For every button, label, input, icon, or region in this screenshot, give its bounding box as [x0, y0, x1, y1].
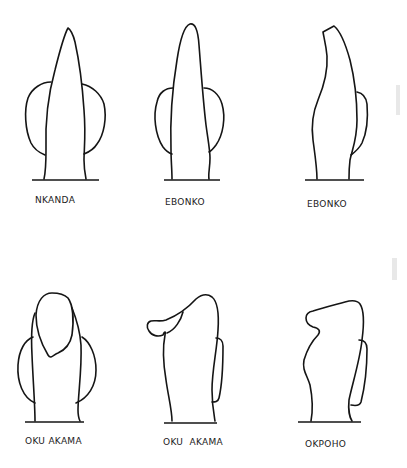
figure-ebonko-front-body: [171, 24, 210, 179]
figure-nkanda-right-lobe: [82, 84, 105, 154]
scan-artifact: [396, 85, 400, 115]
figure-oku-akama-front: [18, 293, 96, 422]
figure-ebonko-side: [305, 26, 367, 180]
label-oku-akama-side: OKU AKAMA: [163, 437, 223, 447]
label-nkanda: NKANDA: [35, 195, 75, 205]
figure-oku-akama-front-face: [36, 293, 73, 357]
figure-nkanda: [26, 28, 106, 180]
label-ebonko-side: EBONKO: [307, 199, 347, 209]
figure-ebonko-side-body: [312, 26, 357, 179]
figure-ebonko-front: [155, 24, 224, 180]
figure-okpoho-body: [304, 301, 364, 421]
label-ebonko-front: EBONKO: [165, 197, 205, 207]
label-oku-akama-front: OKU AKAMA: [25, 436, 82, 446]
figure-ebonko-front-right-lobe: [204, 88, 224, 152]
figure-oku-akama-front-body: [32, 313, 35, 421]
figure-okpoho: [298, 301, 367, 422]
figure-nkanda-body: [44, 28, 86, 179]
figure-oku-akama-side: [147, 295, 223, 423]
figure-okpoho-lobe: [351, 340, 367, 405]
label-okpoho: OKPOHO: [305, 439, 346, 449]
scan-artifact: [392, 258, 397, 280]
figure-drawing-canvas: [0, 0, 407, 468]
